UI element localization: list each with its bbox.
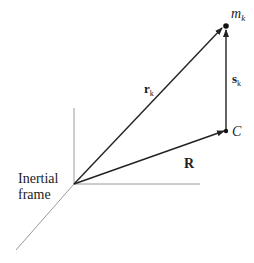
point-m-k [223,23,229,29]
label-s-k: sk [232,71,241,88]
point-C [224,129,228,133]
label-R: R [184,156,195,171]
label-r-k: rk [144,81,154,98]
inertial-frame-diagram: mk C rk sk R Inertial frame [0,0,254,263]
vector-R [74,131,224,184]
inertial-frame-label-line2: frame [18,187,51,202]
vector-r-k [74,28,222,184]
label-m-k: mk [231,6,246,23]
label-C: C [232,124,242,139]
inertial-frame-label-line1: Inertial [18,171,59,186]
